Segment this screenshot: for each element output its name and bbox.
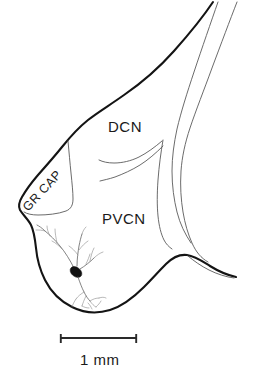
neuron-axon-branch-e [82, 306, 89, 308]
inner-line-right-mid [172, 2, 218, 243]
neuron-axon-branch-g [96, 301, 101, 307]
neuron-axon-branch-f [72, 299, 76, 307]
neuron-axon-branch-a [76, 292, 84, 299]
inner-line-fork-upper [99, 141, 162, 163]
neuron-group [36, 225, 106, 309]
neuron-dendrite-up-tip [82, 227, 86, 234]
neuron-dendrite-right-main [80, 258, 94, 269]
neuron-axon-branch-b [82, 296, 86, 306]
scale-bar-group: 1 mm [60, 334, 137, 368]
neuron-soma [68, 264, 84, 279]
nucleus-outline-group [19, 2, 236, 312]
inner-line-right-long [181, 2, 237, 262]
cochlear-nucleus-diagram: DCN PVCN GR CAP 1 mm [0, 0, 258, 374]
neuron-axon [78, 277, 90, 301]
neuron-dendrite-up-main [77, 234, 82, 266]
nucleus-outer-outline [19, 2, 236, 312]
neuron-axon-branch-c [90, 298, 99, 301]
figure-panel: DCN PVCN GR CAP 1 mm [0, 0, 258, 374]
neuron-axon-branch-d [90, 301, 96, 307]
region-label-dcn: DCN [108, 118, 142, 135]
scale-bar-label: 1 mm [80, 351, 120, 368]
inner-line-fork-lower [100, 146, 163, 181]
neuron-apical-dendrite [37, 225, 74, 268]
region-label-pvcn: PVCN [102, 210, 146, 227]
neuron-dendrite-right-b [94, 252, 103, 258]
neuron-axon-branch-h [99, 297, 106, 298]
neuron-dendrite-up-right [79, 241, 88, 250]
neuron-dendrite-up-left [69, 246, 78, 255]
inner-line-septum-stem [157, 140, 172, 249]
